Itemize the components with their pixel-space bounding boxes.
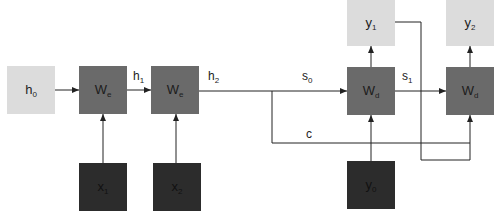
node-label: We (95, 82, 112, 99)
node-wd1: Wd (347, 67, 395, 115)
node-label: Wd (462, 83, 479, 100)
seq2seq-diagram: h0 We We x1 x2 Wd Wd y0 y1 y2 h1 h2 s0 s… (0, 0, 500, 217)
node-label: h0 (25, 82, 37, 99)
node-wd2: Wd (446, 67, 494, 115)
node-we2: We (151, 66, 199, 114)
node-label: Wd (363, 83, 380, 100)
edge-label-c: c (306, 127, 312, 141)
node-label: y2 (465, 15, 476, 32)
edges-layer (0, 0, 500, 217)
node-x1: x1 (79, 163, 127, 211)
node-y0: y0 (347, 161, 395, 209)
edge-label-s0: s0 (302, 69, 312, 85)
node-we1: We (79, 66, 127, 114)
node-y1: y1 (347, 0, 395, 46)
node-h0: h0 (7, 66, 55, 114)
edge-label-s1: s1 (402, 69, 412, 85)
node-label: x1 (98, 179, 109, 196)
node-x2: x2 (153, 163, 201, 211)
edge-label-h1: h1 (133, 69, 144, 85)
node-y2: y2 (446, 0, 494, 46)
edge-label-h2: h2 (208, 69, 219, 85)
node-label: We (167, 82, 184, 99)
node-label: x2 (172, 179, 183, 196)
node-label: y1 (366, 15, 377, 32)
node-label: y0 (366, 177, 377, 194)
